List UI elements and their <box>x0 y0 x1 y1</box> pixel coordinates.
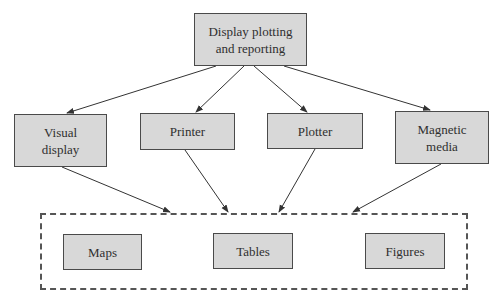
node-plotter: Plotter <box>267 113 363 149</box>
arrow-root-to-plotter <box>254 66 307 112</box>
node-maps: Maps <box>63 234 142 270</box>
arrow-root-to-printer <box>196 66 244 112</box>
node-label: Maps <box>88 244 117 261</box>
arrow-printer-to-products <box>185 150 228 212</box>
node-label: Magnetic media <box>417 121 466 155</box>
node-display-plotting-reporting: Display plotting and reporting <box>194 13 307 66</box>
arrow-visual-display-to-products <box>62 167 170 212</box>
node-printer: Printer <box>140 113 235 150</box>
node-label: Plotter <box>298 123 333 140</box>
node-tables: Tables <box>213 233 293 269</box>
arrow-root-to-magnetic-media <box>284 66 430 110</box>
arrow-magnetic-media-to-products <box>353 164 441 212</box>
node-label: Display plotting and reporting <box>208 23 292 57</box>
node-label: Tables <box>236 243 270 260</box>
node-label: Printer <box>170 123 205 140</box>
node-figures: Figures <box>365 233 445 269</box>
node-label: Figures <box>386 243 425 260</box>
arrow-plotter-to-products <box>279 149 315 212</box>
arrow-root-to-visual-display <box>67 66 216 113</box>
node-magnetic-media: Magnetic media <box>395 111 489 164</box>
node-label: Visual display <box>42 124 80 158</box>
node-visual-display: Visual display <box>14 114 107 167</box>
